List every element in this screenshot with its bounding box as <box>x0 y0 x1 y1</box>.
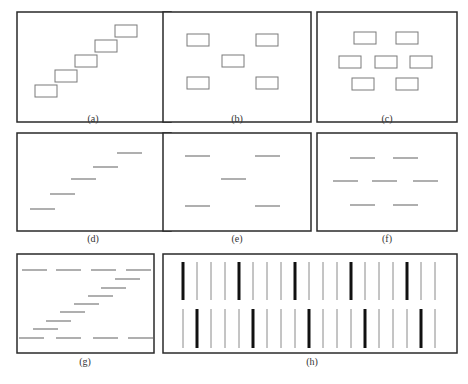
diagram-canvas <box>0 0 468 384</box>
panel-h <box>163 254 457 353</box>
caption-f: (f) <box>367 233 407 244</box>
panel-g <box>17 254 154 353</box>
caption-a: (a) <box>73 113 113 124</box>
panel-a <box>17 12 171 122</box>
panel-frame <box>163 133 311 231</box>
panel-frame <box>17 133 171 231</box>
caption-e: (e) <box>217 233 257 244</box>
panel-b <box>163 12 311 122</box>
caption-d: (d) <box>73 233 113 244</box>
panel-f <box>317 133 457 231</box>
caption-g: (g) <box>65 356 105 367</box>
panel-e <box>163 133 311 231</box>
panel-frame <box>317 133 457 231</box>
caption-h: (h) <box>292 356 332 367</box>
caption-b: (b) <box>217 113 257 124</box>
panel-c <box>317 12 457 122</box>
panel-frame <box>317 12 457 122</box>
caption-c: (c) <box>367 113 407 124</box>
panel-d <box>17 133 171 231</box>
